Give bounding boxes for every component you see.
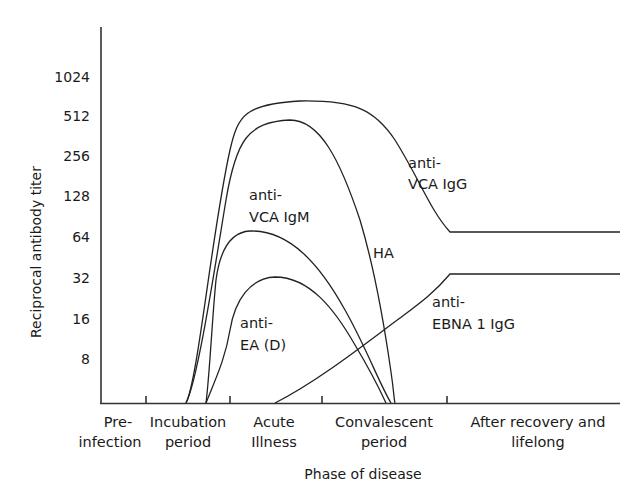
label-ha: HA — [373, 245, 394, 261]
y-tick-8: 8 — [81, 351, 90, 367]
y-tick-32: 32 — [72, 270, 90, 286]
antibody-titer-chart: 1024 512 256 128 64 32 16 8 Reciprocal a… — [0, 0, 635, 500]
category-convalescent-line2: period — [361, 434, 407, 450]
x-axis-title: Phase of disease — [304, 466, 421, 482]
curve-anti-vca-igm — [206, 231, 391, 403]
category-pre-infection-line2: infection — [79, 434, 142, 450]
category-pre-infection-line1: Pre- — [104, 414, 132, 430]
x-category-labels: Pre- infection Incubation period Acute I… — [79, 414, 606, 450]
curve-anti-ea-d — [206, 277, 386, 403]
category-incubation-line2: period — [165, 434, 211, 450]
category-after-recovery-line2: lifelong — [511, 434, 564, 450]
category-incubation-line1: Incubation — [150, 414, 227, 430]
category-after-recovery-line1: After recovery and — [471, 414, 606, 430]
y-tick-16: 16 — [72, 311, 90, 327]
label-anti-ebna1-igg-line1: anti- — [432, 294, 465, 310]
y-axis-title: Reciprocal antibody titer — [28, 166, 44, 338]
label-anti-vca-igm-line2: VCA IgM — [249, 209, 310, 225]
label-anti-vca-igm-line1: anti- — [249, 187, 282, 203]
curve-anti-vca-igg — [186, 101, 620, 403]
x-ticks — [146, 396, 447, 403]
label-anti-ebna1-igg-line2: EBNA 1 IgG — [432, 316, 515, 332]
label-anti-vca-igg-line2: VCA IgG — [408, 176, 467, 192]
curve-labels: anti- VCA IgG anti- VCA IgM HA anti- EA … — [240, 155, 515, 353]
label-anti-ea-d-line2: EA (D) — [240, 337, 286, 353]
y-tick-labels: 1024 512 256 128 64 32 16 8 — [54, 69, 90, 367]
category-convalescent-line1: Convalescent — [335, 414, 433, 430]
y-tick-256: 256 — [63, 148, 90, 164]
label-anti-ea-d-line1: anti- — [240, 315, 273, 331]
y-tick-64: 64 — [72, 229, 90, 245]
category-acute-line2: Illness — [251, 434, 297, 450]
label-anti-vca-igg-line1: anti- — [408, 155, 441, 171]
category-acute-line1: Acute — [253, 414, 295, 430]
y-tick-128: 128 — [63, 188, 90, 204]
y-tick-512: 512 — [63, 108, 90, 124]
y-tick-1024: 1024 — [54, 69, 90, 85]
